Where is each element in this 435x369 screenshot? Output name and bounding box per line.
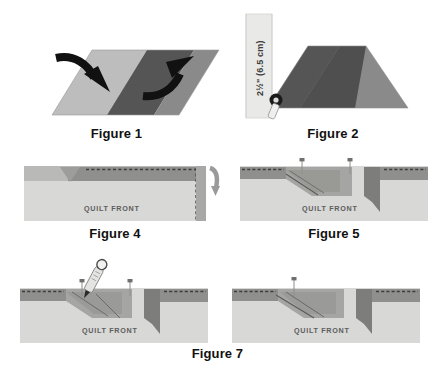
figure-4-svg: QUILT FRONT bbox=[24, 166, 220, 222]
right-edge-band bbox=[196, 166, 206, 221]
quilt-front-label: QUILT FRONT bbox=[302, 204, 357, 213]
fold-down-arrow-icon bbox=[210, 168, 220, 196]
figure-6-svg: QUILT FRONT bbox=[20, 288, 210, 344]
figure-7-graphic: QUILT FRONT bbox=[232, 288, 422, 344]
figure-2-graphic: 2½" (6.5 cm) bbox=[238, 12, 428, 127]
figure-5-svg: QUILT FRONT bbox=[240, 166, 430, 222]
figure-5-graphic: QUILT FRONT bbox=[240, 166, 430, 222]
diagram-canvas: Figure 1 2½" (6.5 cm) Figure 2 bbox=[0, 0, 435, 369]
figure-1-svg bbox=[14, 20, 219, 125]
figure-6-graphic: QUILT FRONT bbox=[20, 288, 210, 344]
measurement-label: 2½" (6.5 cm) bbox=[255, 40, 265, 96]
figure-2-caption: Figure 2 bbox=[238, 126, 428, 141]
figure-2-svg: 2½" (6.5 cm) bbox=[238, 12, 428, 127]
figure-1-caption: Figure 1 bbox=[14, 126, 219, 141]
figure-4-graphic: QUILT FRONT bbox=[24, 166, 220, 222]
figure-7-svg: QUILT FRONT bbox=[232, 288, 422, 344]
figure-1-graphic bbox=[14, 20, 219, 125]
figure-7-caption: Figure 7 bbox=[0, 346, 435, 361]
figure-5-caption: Figure 5 bbox=[240, 226, 428, 241]
figure-4-caption: Figure 4 bbox=[24, 226, 206, 241]
quilt-front-label: QUILT FRONT bbox=[82, 326, 137, 335]
quilt-front-label: QUILT FRONT bbox=[294, 326, 349, 335]
quilt-front-label: QUILT FRONT bbox=[84, 204, 139, 213]
